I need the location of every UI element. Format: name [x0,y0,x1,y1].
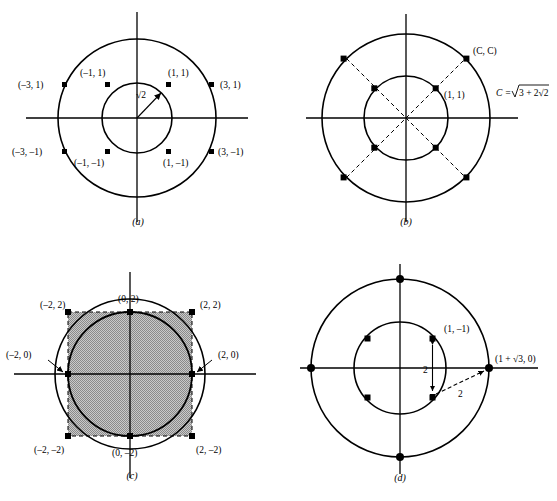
point-outer-225 [341,174,347,180]
point-1-1 [166,82,171,87]
formula-c: C = 3 + 2√2 [496,85,549,98]
panel-b: (C, C) (1, 1) C = 3 + 2√2 (b) [278,0,557,250]
point-inner-315 [430,395,436,401]
figure-root: √2 (–3, 1) (–1, 1) (1, 1) (3, 1) (–3, –1… [0,0,557,501]
formula-lhs: C = [496,88,511,98]
point-0-2 [127,309,133,315]
panel-a-diagram: √2 (–3, 1) (–1, 1) (1, 1) (3, 1) (–3, –1… [0,0,278,250]
point-2-0 [189,371,195,377]
panel-b-diagram: (C, C) (1, 1) C = 3 + 2√2 [278,0,557,250]
point-inner-135 [365,336,371,342]
caption-c: (c) [112,470,152,481]
point-0-m2 [127,433,133,439]
label-m3-1: (–3, 1) [18,80,43,91]
point-outer-135 [341,56,347,62]
point-axis-bottom [396,453,404,461]
label-m2-2: (–2, 2) [40,300,65,311]
label-2-0: (2, 0) [218,350,239,361]
point-2-2 [189,309,195,315]
panel-a: √2 (–3, 1) (–1, 1) (1, 1) (3, 1) (–3, –1… [0,0,278,250]
caption-b: (b) [386,216,426,227]
formula-rhs: 3 + 2√2 [519,88,549,98]
label-axis-point: (1 + √3, 0) [495,354,536,365]
label-0-m2: (0, –2) [112,448,137,459]
point-m3-m1 [62,149,67,154]
point-1-m1 [430,336,436,342]
point-m2-m2 [65,433,71,439]
point-axis-top [396,275,404,283]
label-m1-1: (–1, 1) [80,68,105,79]
point-m1-m1 [105,149,110,154]
label-1-1: (1, 1) [168,68,189,79]
label-3-1: (3, 1) [220,80,241,91]
label-m2-m2: (–2, –2) [34,445,64,456]
panel-d: 2 2 (1, –1) (1 + √3, 0) (d) [278,250,557,501]
label-11: (1, 1) [444,90,465,101]
label-m3-m1: (–3, –1) [12,147,42,158]
point-cc [463,56,469,62]
point-inner-135 [371,85,377,91]
point-3-1 [209,82,214,87]
panel-c: (–2, 2) (0, 2) (2, 2) (–2, 0) (2, 0) (–2… [0,250,278,501]
point-11 [433,85,439,91]
point-axis-left [307,364,315,372]
label-2-m2: (2, –2) [196,445,221,456]
diagonal-dimension-label: 2 [458,389,463,399]
radius-label: √2 [136,90,146,100]
point-m2-2 [65,309,71,315]
point-inner-225 [365,395,371,401]
caption-d: (d) [380,472,420,483]
label-cc: (C, C) [473,46,497,57]
point-2-m2 [189,433,195,439]
point-outer-315 [463,174,469,180]
panel-c-diagram: (–2, 2) (0, 2) (2, 2) (–2, 0) (2, 0) (–2… [0,250,278,501]
label-1-m1: (1, –1) [444,324,469,335]
label-2-2: (2, 2) [200,300,221,311]
point-1-m1 [166,149,171,154]
point-m2-0 [65,371,71,377]
panel-d-diagram: 2 2 (1, –1) (1 + √3, 0) [278,250,557,501]
caption-a: (a) [118,216,158,227]
vertical-dimension-label: 2 [423,365,428,375]
label-1-m1: (1, –1) [163,158,188,169]
point-axis-right [485,364,493,372]
point-inner-315 [433,145,439,151]
point-inner-225 [371,145,377,151]
point-m1-1 [105,82,110,87]
point-3-m1 [209,149,214,154]
point-m3-1 [62,82,67,87]
label-3-m1: (3, –1) [218,147,243,158]
label-0-2: (0, 2) [118,294,139,305]
label-m1-m1: (–1, –1) [74,158,104,169]
label-m2-0: (–2, 0) [6,350,31,361]
